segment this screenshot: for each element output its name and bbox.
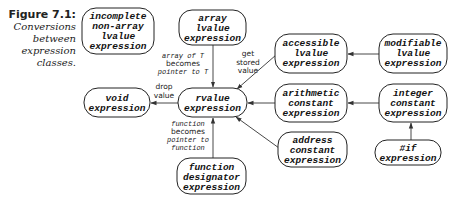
node-label: expression xyxy=(379,153,436,164)
node-label: expression xyxy=(184,103,241,114)
edge-label-line: value xyxy=(154,91,175,100)
node-label: expression xyxy=(184,33,241,44)
edge-label-get-stored-value: getstoredvalue xyxy=(236,49,260,75)
node-function-designator: function designator expression xyxy=(177,158,246,194)
node-accessible-lvalue: accessible lvalue expression xyxy=(275,34,347,73)
edge-label-line: pointer to xyxy=(166,136,209,144)
node-label: expression xyxy=(282,108,339,119)
node-integer-constant: integer constant expression xyxy=(379,84,447,122)
node-label: expression xyxy=(384,108,441,119)
edge-address-to-rvalue xyxy=(236,117,279,148)
node-rvalue: rvalue expression xyxy=(178,88,247,117)
edge-label-line: becomes xyxy=(166,59,200,68)
conversion-diagram: incomplete non-array lvalue expression a… xyxy=(0,0,459,207)
edge-label-line: becomes xyxy=(171,127,205,136)
node-label: expression xyxy=(183,182,240,193)
edge-label-function-to-rvalue: functionbecomespointer tofunction xyxy=(166,120,209,152)
node-label: expression xyxy=(89,41,146,52)
node-modifiable-lvalue: modifiable lvalue expression xyxy=(379,34,447,73)
edge-label-line: function xyxy=(171,144,205,152)
node-address-constant: address constant expression xyxy=(278,132,347,167)
node-if-expression: #if expression xyxy=(375,140,441,165)
edge-label-line: value xyxy=(238,66,259,75)
node-incomplete-non-array-lvalue: incomplete non-array lvalue expression xyxy=(82,8,154,54)
node-array-lvalue: array lvalue expression xyxy=(179,10,246,45)
node-arithmetic-constant: arithmetic constant expression xyxy=(275,84,347,122)
node-label: expression xyxy=(88,103,145,114)
node-void: void expression xyxy=(84,88,150,117)
node-label: expression xyxy=(384,58,441,69)
edge-label-line: drop xyxy=(155,82,172,91)
edge-label-drop-value: dropvalue xyxy=(154,82,175,100)
edge-label-array-to-rvalue: array of Tbecomespointer to T xyxy=(157,52,209,76)
edge-label-line: pointer to T xyxy=(157,68,209,76)
node-label: expression xyxy=(284,155,341,166)
node-label: expression xyxy=(282,58,339,69)
